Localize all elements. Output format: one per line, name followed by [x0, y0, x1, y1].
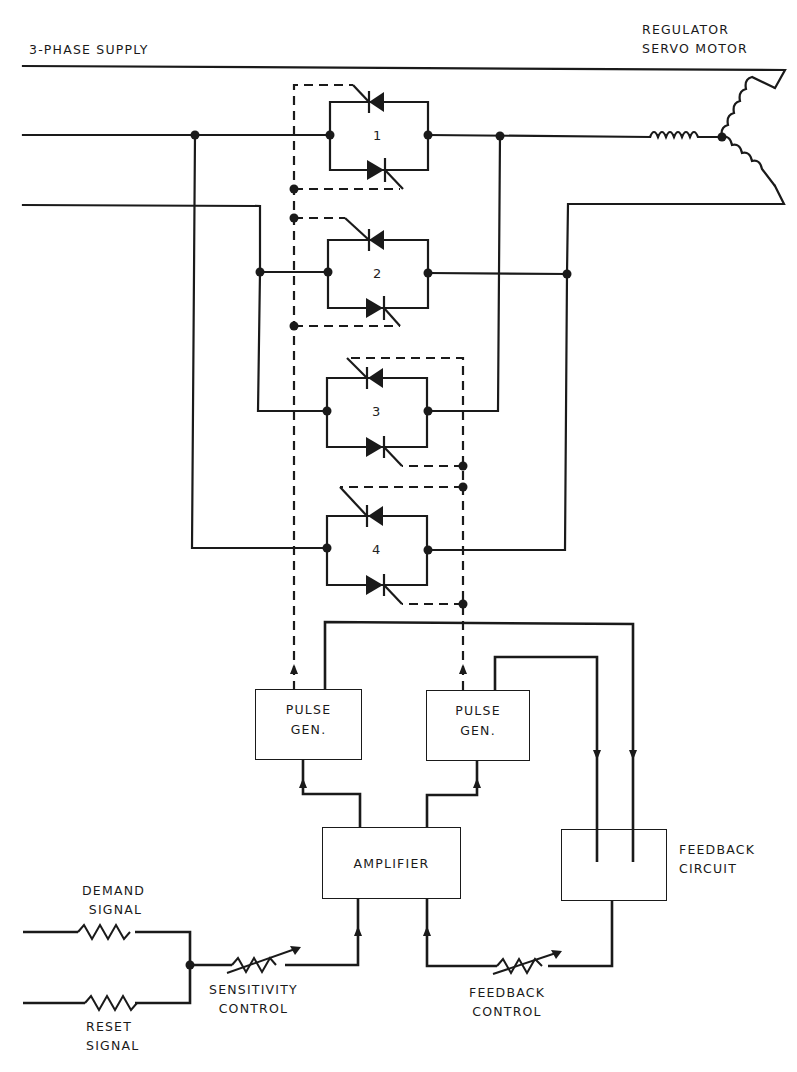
- feedback-control-line2: CONTROL: [469, 1002, 545, 1021]
- pulse-gen-2-line2: GEN.: [427, 721, 529, 741]
- amplifier-label: AMPLIFIER: [323, 854, 460, 874]
- pair-3-number: 3: [372, 404, 380, 419]
- demand-label-line2: SIGNAL: [82, 900, 145, 919]
- reset-resistor: [85, 996, 137, 1010]
- pair-1-number: 1: [373, 128, 381, 143]
- feedback-control-label: FEEDBACK CONTROL: [469, 983, 545, 1021]
- supply-label: 3-PHASE SUPPLY: [29, 40, 149, 59]
- supply-line-a: [23, 66, 785, 88]
- pulse-gen-2-label: PULSE GEN.: [427, 701, 529, 741]
- supply-line-c: [23, 205, 260, 272]
- feedback-circuit-line1: FEEDBACK: [679, 840, 755, 859]
- feedback-circuit-label: FEEDBACK CIRCUIT: [679, 840, 755, 878]
- motor-winding-lower: [722, 137, 775, 186]
- gate-bus-right: [347, 358, 463, 690]
- pulse-gen-2-line1: PULSE: [427, 701, 529, 721]
- amplifier-block: AMPLIFIER: [322, 827, 461, 899]
- feedback-circuit-line2: CIRCUIT: [679, 859, 755, 878]
- reset-label-line1: RESET: [86, 1017, 139, 1036]
- pulse-gen-1-line1: PULSE: [256, 700, 361, 720]
- motor-winding-horizontal: [650, 132, 722, 137]
- pair-2-number: 2: [373, 266, 381, 281]
- motor-label-line2: SERVO MOTOR: [642, 39, 748, 58]
- reset-label-line2: SIGNAL: [86, 1036, 139, 1055]
- sensitivity-label-line2: CONTROL: [209, 999, 298, 1018]
- demand-label-line1: DEMAND: [82, 881, 145, 900]
- pair-4-number: 4: [372, 542, 380, 557]
- sensitivity-control-label: SENSITIVITY CONTROL: [209, 980, 298, 1018]
- pulse-gen-1-label: PULSE GEN.: [256, 700, 361, 740]
- reset-signal-label: RESET SIGNAL: [86, 1017, 139, 1055]
- motor-label-line1: REGULATOR: [642, 20, 748, 39]
- motor-label: REGULATOR SERVO MOTOR: [642, 20, 748, 58]
- demand-resistor: [78, 925, 130, 939]
- demand-signal-label: DEMAND SIGNAL: [82, 881, 145, 919]
- motor-winding-upper: [722, 77, 775, 137]
- pulse-gen-2-block: PULSE GEN.: [426, 690, 530, 761]
- out-2-to-motor: [567, 186, 784, 274]
- bus-c-down: [258, 272, 327, 411]
- out-2: [428, 273, 567, 274]
- pulse-gen-1-block: PULSE GEN.: [255, 689, 362, 760]
- gate-bus-left: [294, 85, 353, 690]
- sensitivity-label-line1: SENSITIVITY: [209, 980, 298, 999]
- feedback-control-line1: FEEDBACK: [469, 983, 545, 1002]
- pulse-gen-1-line2: GEN.: [256, 720, 361, 740]
- feedback-circuit-block: [561, 829, 667, 901]
- out-1: [428, 135, 650, 137]
